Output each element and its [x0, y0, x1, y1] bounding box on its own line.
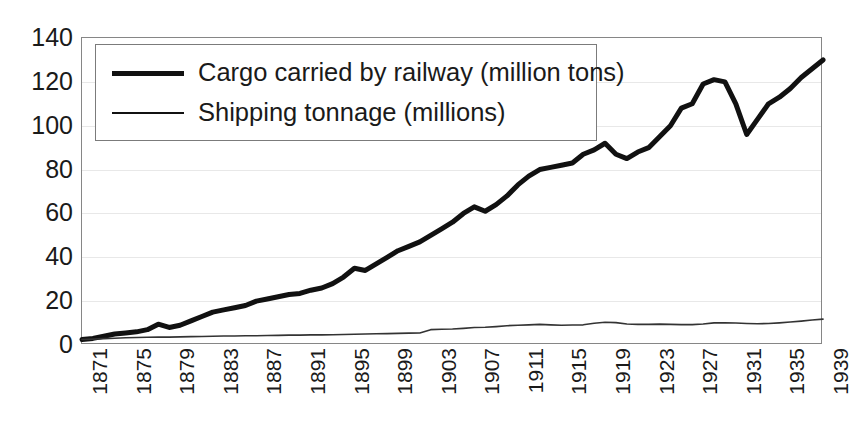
y-axis: 140120100806040200: [0, 0, 73, 430]
x-tick-label-1923: 1923: [656, 348, 677, 395]
x-tick-label-1875: 1875: [133, 348, 154, 395]
x-tick-label-1903: 1903: [438, 348, 459, 395]
legend-label: Shipping tonnage (millions): [198, 100, 506, 126]
x-tick-label-1899: 1899: [394, 348, 415, 395]
x-tick-label-1907: 1907: [481, 348, 502, 395]
y-tick-label-120: 120: [3, 68, 73, 93]
y-tick-label-0: 0: [3, 332, 73, 357]
x-tick-label-1915: 1915: [568, 348, 589, 395]
x-axis: 1871187518791883188718911895189919031907…: [81, 346, 822, 430]
x-tick-label-1883: 1883: [220, 348, 241, 395]
line-chart: 140120100806040200 187118751879188318871…: [0, 0, 857, 430]
x-tick-label-1939: 1939: [830, 348, 851, 395]
legend-item-cargo: Cargo carried by railway (million tons): [96, 56, 625, 90]
y-tick-label-100: 100: [3, 112, 73, 137]
y-tick-label-60: 60: [3, 200, 73, 225]
x-tick-label-1871: 1871: [89, 348, 110, 395]
legend: Cargo carried by railway (million tons) …: [95, 44, 597, 141]
legend-label: Cargo carried by railway (million tons): [198, 60, 625, 86]
x-tick-label-1887: 1887: [263, 348, 284, 395]
y-tick-label-140: 140: [3, 25, 73, 50]
x-tick-label-1895: 1895: [351, 348, 372, 395]
y-tick-label-80: 80: [3, 156, 73, 181]
x-tick-label-1891: 1891: [307, 348, 328, 395]
legend-line-swatch-icon: [112, 71, 184, 76]
y-tick-label-20: 20: [3, 288, 73, 313]
x-tick-label-1927: 1927: [699, 348, 720, 395]
x-tick-label-1919: 1919: [612, 348, 633, 395]
x-tick-label-1911: 1911: [525, 348, 546, 393]
x-tick-label-1879: 1879: [176, 348, 197, 395]
legend-item-shipping: Shipping tonnage (millions): [96, 96, 506, 130]
legend-line-swatch-icon: [112, 112, 184, 114]
x-tick-label-1931: 1931: [743, 348, 764, 395]
x-tick-label-1935: 1935: [786, 348, 807, 395]
y-tick-label-40: 40: [3, 244, 73, 269]
